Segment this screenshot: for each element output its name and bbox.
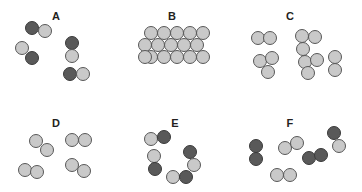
atom-light-f-3: [283, 168, 297, 182]
atom-dark-f-8: [327, 126, 341, 140]
atom-light-c-7: [296, 42, 310, 56]
panel-a: [0, 0, 362, 192]
atom-dark-f-1: [249, 152, 263, 166]
atom-light-b-15: [138, 50, 152, 64]
atom-light-d-1: [40, 143, 54, 157]
atom-light-a-2: [15, 41, 29, 55]
atom-light-d-0: [29, 134, 43, 148]
atom-light-b-9: [190, 38, 204, 52]
atom-light-b-11: [157, 50, 171, 64]
atom-light-c-4: [261, 65, 275, 79]
atom-light-c-12: [328, 63, 342, 77]
atom-light-b-0: [144, 26, 158, 40]
atom-light-c-0: [251, 31, 265, 45]
atom-light-a-5: [65, 49, 79, 63]
atom-dark-f-7: [314, 148, 328, 162]
atom-light-d-7: [77, 164, 91, 178]
atom-light-c-8: [298, 55, 312, 69]
atom-light-a-1: [38, 24, 52, 38]
panel-label-c: C: [280, 10, 300, 22]
atom-light-b-5: [138, 38, 152, 52]
atom-light-c-11: [328, 50, 342, 64]
atom-light-b-4: [196, 26, 210, 40]
atom-dark-f-6: [302, 151, 316, 165]
atom-light-e-0: [144, 132, 158, 146]
atom-light-d-4: [65, 133, 79, 147]
atom-light-c-10: [301, 66, 315, 80]
atom-dark-a-0: [25, 21, 39, 35]
atom-light-e-5: [187, 158, 201, 172]
atom-light-d-2: [18, 163, 32, 177]
atom-dark-f-0: [249, 139, 263, 153]
atom-light-d-3: [30, 165, 44, 179]
atom-light-b-3: [183, 26, 197, 40]
atom-dark-a-6: [63, 67, 77, 81]
atom-dark-e-7: [179, 170, 193, 184]
atom-light-c-5: [295, 29, 309, 43]
atom-light-b-8: [177, 38, 191, 52]
atom-dark-a-3: [25, 51, 39, 65]
panel-label-a: A: [46, 10, 66, 22]
atom-light-b-6: [151, 38, 165, 52]
panel-c: [0, 0, 362, 192]
atom-light-d-6: [65, 158, 79, 172]
atom-light-d-5: [78, 133, 92, 147]
panel-label-b: B: [162, 10, 182, 22]
atom-light-a-7: [76, 67, 90, 81]
panel-label-e: E: [165, 117, 185, 129]
atom-light-c-1: [263, 31, 277, 45]
atom-dark-e-4: [183, 145, 197, 159]
panel-f: [0, 0, 362, 192]
atom-light-c-9: [310, 53, 324, 67]
atom-light-f-5: [290, 136, 304, 150]
atom-light-f-2: [270, 168, 284, 182]
particle-diagram-figure: ABCDEF: [0, 0, 362, 192]
atom-light-b-14: [196, 50, 210, 64]
atom-light-f-9: [332, 139, 346, 153]
panel-d: [0, 0, 362, 192]
atom-light-c-3: [265, 51, 279, 65]
panel-b: [0, 0, 362, 192]
atom-light-b-12: [170, 50, 184, 64]
panel-label-f: F: [280, 117, 300, 129]
atom-light-c-2: [253, 54, 267, 68]
atom-light-e-2: [147, 149, 161, 163]
panel-e: [0, 0, 362, 192]
panel-label-d: D: [46, 117, 66, 129]
atom-dark-e-3: [148, 162, 162, 176]
atom-light-e-6: [166, 170, 180, 184]
atom-light-c-6: [308, 30, 322, 44]
atom-light-b-1: [157, 26, 171, 40]
atom-light-b-13: [183, 50, 197, 64]
atom-dark-a-4: [65, 36, 79, 50]
atom-light-b-2: [170, 26, 184, 40]
atom-dark-e-1: [157, 130, 171, 144]
atom-light-b-7: [164, 38, 178, 52]
atom-light-b-10: [144, 50, 158, 64]
atom-light-f-4: [278, 141, 292, 155]
